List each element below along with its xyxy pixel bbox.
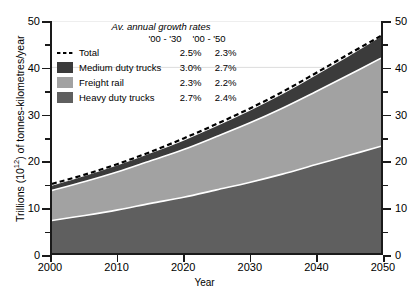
y-tick-left-10 xyxy=(42,208,50,210)
y-tick-right-30 xyxy=(383,115,391,117)
y-tick-right-40 xyxy=(383,68,391,70)
y-axis-title: Trillions (1012) of tonnes-kilometres/ye… xyxy=(12,14,26,244)
legend-rate-total-2050: 2.3% xyxy=(208,48,243,58)
x-axis-label-2050: 2050 xyxy=(360,262,406,273)
y-axis-label-right-40: 40 xyxy=(395,63,409,74)
chart-figure: 50 40 30 20 10 0 50 40 30 20 10 0 2000 2… xyxy=(0,0,409,294)
y-axis-label-right-10: 10 xyxy=(395,203,409,214)
chart-legend: Av. annual growth rates '00 - '30 '00 - … xyxy=(57,22,243,105)
y-axis-title-pre: Trillions (10 xyxy=(14,168,26,222)
y-tick-left-50 xyxy=(42,21,50,23)
y-tick-right-50 xyxy=(383,21,391,23)
x-axis-label-2020: 2020 xyxy=(160,262,206,273)
legend-rate-total-2030: 2.5% xyxy=(173,48,208,58)
x-axis-label-2040: 2040 xyxy=(293,262,339,273)
legend-column-headers: '00 - '30 '00 - '50 xyxy=(57,34,243,44)
y-tick-right-25 xyxy=(383,138,388,140)
y-tick-left-25 xyxy=(45,138,50,140)
y-axis-label-right-30: 30 xyxy=(395,110,409,121)
legend-header-2000-2030: '00 - '30 xyxy=(143,34,187,44)
y-tick-left-20 xyxy=(42,161,50,163)
color-swatch-freight-rail xyxy=(57,77,73,88)
y-axis-title-exponent: 12 xyxy=(12,160,21,168)
legend-rate-heavy-duty-trucks-2050: 2.4% xyxy=(208,93,243,103)
y-tick-right-15 xyxy=(383,185,388,187)
legend-item-freight-rail[interactable]: Freight rail 2.3% 2.2% xyxy=(57,75,243,90)
dashed-line-icon xyxy=(57,47,73,58)
x-axis-label-2030: 2030 xyxy=(227,262,273,273)
color-swatch-medium-duty-trucks xyxy=(57,62,73,73)
y-tick-left-45 xyxy=(45,44,50,46)
y-tick-right-35 xyxy=(383,91,388,93)
legend-item-medium-duty-trucks[interactable]: Medium duty trucks 3.0% 2.7% xyxy=(57,60,243,75)
y-axis-label-right-50: 50 xyxy=(395,16,409,27)
y-tick-left-5 xyxy=(45,232,50,234)
y-tick-left-15 xyxy=(45,185,50,187)
x-axis-label-2010: 2010 xyxy=(94,262,140,273)
y-axis-label-left-0: 0 xyxy=(10,250,40,261)
y-tick-left-35 xyxy=(45,91,50,93)
legend-rate-heavy-duty-trucks-2030: 2.7% xyxy=(173,93,208,103)
y-tick-right-5 xyxy=(383,232,388,234)
legend-item-heavy-duty-trucks[interactable]: Heavy duty trucks 2.7% 2.4% xyxy=(57,90,243,105)
legend-rate-medium-duty-trucks-2030: 3.0% xyxy=(173,63,208,73)
color-swatch-heavy-duty-trucks xyxy=(57,92,73,103)
x-axis-label-2000: 2000 xyxy=(27,262,73,273)
legend-rate-freight-rail-2050: 2.2% xyxy=(208,78,243,88)
y-tick-right-45 xyxy=(383,44,388,46)
legend-label-medium-duty-trucks: Medium duty trucks xyxy=(79,63,173,73)
y-tick-right-20 xyxy=(383,161,391,163)
legend-rate-freight-rail-2030: 2.3% xyxy=(173,78,208,88)
y-axis-title-post: ) of tonnes-kilometres/year xyxy=(14,35,26,159)
y-tick-left-40 xyxy=(42,68,50,70)
legend-rate-medium-duty-trucks-2050: 2.7% xyxy=(208,63,243,73)
y-axis-label-right-20: 20 xyxy=(395,156,409,167)
y-tick-right-10 xyxy=(383,208,391,210)
legend-label-total: Total xyxy=(79,48,173,58)
legend-label-heavy-duty-trucks: Heavy duty trucks xyxy=(79,93,173,103)
legend-label-freight-rail: Freight rail xyxy=(79,78,173,88)
legend-item-total[interactable]: Total 2.5% 2.3% xyxy=(57,45,243,60)
legend-header-2000-2050: '00 - '50 xyxy=(187,34,231,44)
x-axis-title: Year xyxy=(0,277,409,288)
legend-title: Av. annual growth rates xyxy=(57,22,243,32)
y-axis-label-right-0: 0 xyxy=(395,250,409,261)
y-tick-left-0 xyxy=(42,255,50,257)
y-tick-left-30 xyxy=(42,115,50,117)
